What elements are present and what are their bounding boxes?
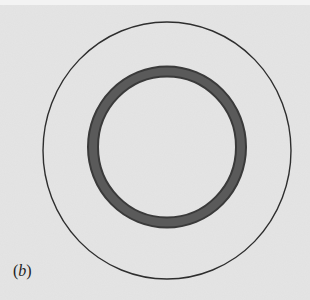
paper-texture	[0, 5, 310, 300]
figure-panel-b	[0, 0, 310, 300]
panel-label: (b)	[13, 262, 32, 280]
label-close-paren: )	[26, 262, 31, 279]
